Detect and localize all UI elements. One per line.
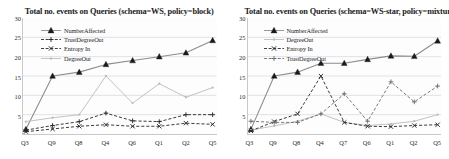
legend-marker-icon — [40, 26, 62, 35]
legend-item[interactable]: Entropy In — [40, 44, 105, 53]
x-tick-label: Q2 — [410, 139, 418, 146]
legend-marker-icon — [263, 26, 285, 35]
y-tick-label: 5 — [242, 112, 245, 119]
y-tick-label: 5 — [18, 112, 21, 119]
legend-left: NumberAffectedTrustDegreeOutEntropy InDe… — [40, 26, 105, 63]
legend-item[interactable]: NumberAffected — [40, 26, 105, 35]
x-tick-label: Q3 — [246, 139, 254, 146]
legend-marker-icon — [263, 54, 285, 63]
y-axis-labels-left: 51015202530 — [8, 18, 22, 135]
x-tick-label: Q6 — [363, 139, 371, 146]
x-tick-label: Q3 — [21, 139, 29, 146]
legend-marker-icon — [40, 35, 62, 44]
legend-item[interactable]: NumberAffected — [263, 26, 328, 35]
legend-item[interactable]: TrustDegreeOut — [263, 54, 328, 63]
legend-label: DegreeOut — [62, 55, 91, 62]
legend-marker-icon — [263, 44, 285, 53]
figure-two-panel-line-charts: Total no. events on Queries (schema=WS, … — [0, 0, 449, 159]
legend-label: TrustDegreeOut — [285, 55, 326, 62]
y-tick-label: 25 — [239, 34, 245, 41]
chart-title-right: Total no. events on Queries (schema=WS-s… — [245, 6, 444, 18]
x-tick-label: Q1 — [386, 139, 394, 146]
legend-label: NumberAffected — [62, 27, 105, 34]
legend-label: TrustDegreeOut — [62, 36, 103, 43]
x-tick-label: Q7 — [339, 139, 347, 146]
x-tick-label: Q8 — [75, 139, 83, 146]
legend-label: NumberAffected — [285, 27, 328, 34]
chart-panel-left: Total no. events on Queries (schema=WS, … — [0, 0, 225, 159]
x-axis-labels-right: Q3Q9Q8Q4Q7Q6Q1Q2Q5 — [247, 137, 442, 151]
x-tick-label: Q9 — [269, 139, 277, 146]
x-tick-label: Q2 — [182, 139, 190, 146]
y-tick-label: 15 — [15, 73, 21, 80]
chart-title-left: Total no. events on Queries (schema=WS, … — [20, 6, 219, 18]
x-tick-label: Q6 — [128, 139, 136, 146]
panel-inner-left: Total no. events on Queries (schema=WS, … — [8, 4, 219, 155]
x-tick-label: Q5 — [209, 139, 217, 146]
x-tick-label: Q4 — [101, 139, 109, 146]
y-tick-label: 30 — [239, 15, 245, 22]
y-tick-label: 25 — [15, 34, 21, 41]
x-tick-label: Q9 — [48, 139, 56, 146]
legend-marker-icon — [40, 44, 62, 53]
y-axis-labels-right: 51015202530 — [233, 18, 247, 135]
y-tick-label: 10 — [15, 92, 21, 99]
legend-marker-icon — [263, 35, 285, 44]
legend-right: NumberAffectedDegreeOutEntropy InTrustDe… — [263, 26, 328, 63]
x-tick-label: Q8 — [292, 139, 300, 146]
legend-label: Entropy In — [285, 45, 313, 52]
panel-inner-right: Total no. events on Queries (schema=WS-s… — [233, 4, 444, 155]
x-tick-label: Q4 — [316, 139, 324, 146]
x-axis-labels-left: Q3Q9Q8Q4Q6Q1Q2Q5 — [22, 137, 217, 151]
legend-item[interactable]: TrustDegreeOut — [40, 35, 105, 44]
chart-panel-right: Total no. events on Queries (schema=WS-s… — [225, 0, 449, 159]
x-tick-label: Q5 — [433, 139, 441, 146]
legend-item[interactable]: DegreeOut — [263, 35, 328, 44]
y-tick-label: 10 — [239, 92, 245, 99]
legend-label: DegreeOut — [285, 36, 314, 43]
x-tick-label: Q1 — [155, 139, 163, 146]
legend-label: Entropy In — [62, 45, 90, 52]
y-tick-label: 15 — [239, 73, 245, 80]
y-tick-label: 20 — [239, 53, 245, 60]
legend-marker-icon — [40, 54, 62, 63]
y-tick-label: 30 — [15, 15, 21, 22]
legend-item[interactable]: Entropy In — [263, 44, 328, 53]
legend-item[interactable]: DegreeOut — [40, 54, 105, 63]
y-tick-label: 20 — [15, 53, 21, 60]
